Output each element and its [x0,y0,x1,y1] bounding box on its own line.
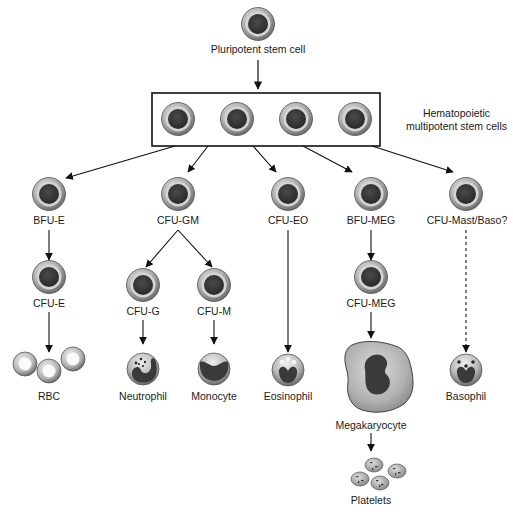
label-cfu-g: CFU-G [126,305,159,317]
neutrophil-icon [127,353,159,385]
label-basophil: Basophil [446,390,486,402]
multipotent-cell-icon [221,103,254,136]
multipotent-cell-icon [280,103,313,136]
label-monocyte: Monocyte [191,390,237,402]
bfu-meg-cell-icon [355,178,388,211]
arrow-cfu-gm-to-cfu-g [146,230,178,267]
arrow-to-cfu-gm [188,146,208,172]
arrow-cfu-gm-to-cfu-m [178,230,212,267]
arrow-to-cfu-eo [253,146,276,172]
label-cfu-gm: CFU-GM [157,214,199,226]
label-rbc: RBC [38,390,60,402]
cfu-eo-cell-icon [272,178,305,211]
arrow-to-bfu-e [66,146,175,178]
label-multipotent-stem-cells: Hematopoietic multipotent stem cells [400,107,513,133]
label-cfu-m: CFU-M [197,305,231,317]
label-cfu-e: CFU-E [33,297,65,309]
monocyte-icon [198,353,230,385]
pluripotent-stem-cell-icon [242,8,275,41]
label-bfu-e: BFU-E [33,214,65,226]
label-multipotent-line1: Hematopoietic [400,107,513,120]
label-cfu-mast-baso: CFU-Mast/Baso? [427,214,508,226]
platelets-icon [351,458,406,490]
bfu-e-cell-icon [33,178,66,211]
label-bfu-meg: BFU-MEG [347,214,395,226]
cfu-mast-baso-cell-icon [450,178,483,211]
label-megakaryocyte: Megakaryocyte [335,419,406,431]
cfu-meg-cell-icon [355,261,388,294]
eosinophil-icon [272,354,304,386]
cfu-gm-cell-icon [162,178,195,211]
label-platelets: Platelets [351,494,391,506]
cfu-e-cell-icon [33,261,66,294]
hematopoiesis-diagram: Pluripotent stem cell Hematopoietic mult… [0,0,513,512]
label-eosinophil: Eosinophil [264,390,312,402]
rbc-icon [13,347,85,383]
label-cfu-meg: CFU-MEG [347,297,396,309]
cfu-g-cell-icon [127,269,160,302]
label-pluripotent-stem-cell: Pluripotent stem cell [211,43,306,55]
arrow-to-bfu-meg [303,146,352,172]
multipotent-cell-icon [162,103,195,136]
label-cfu-eo: CFU-EO [268,214,308,226]
diagram-canvas [0,0,513,512]
label-multipotent-line2: multipotent stem cells [400,120,513,133]
basophil-icon [450,354,482,386]
megakaryocyte-icon [345,341,413,412]
multipotent-cell-icon [339,103,372,136]
arrow-to-cfu-mast-baso [372,146,453,172]
cfu-m-cell-icon [198,269,231,302]
label-neutrophil: Neutrophil [119,390,167,402]
